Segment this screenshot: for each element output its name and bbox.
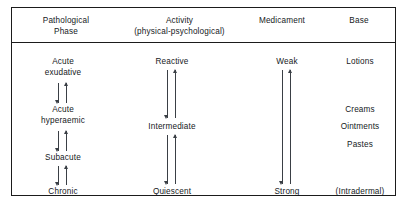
phase-item-line-2: exudative [13, 67, 113, 78]
base-item-intradermal: (Intradermal) [323, 186, 397, 197]
bidirectional-arrow-exudative-hyperaemic [57, 83, 68, 103]
arrow-shaft-up [175, 70, 176, 118]
medicament-item-weak: Weak [237, 56, 337, 67]
base-item-lotions: Lotions [323, 56, 397, 67]
activity-item-line-1: Quiescent [112, 186, 232, 197]
base-item-line-1: Pastes [323, 139, 397, 150]
column-header-line-2: Phase [12, 26, 120, 37]
activity-item-quiescent: Quiescent [112, 186, 232, 197]
phase-item-line-1: Acute [13, 104, 113, 115]
base-item-line-1: Lotions [323, 56, 397, 67]
header-divider-rule [12, 42, 395, 43]
phase-item-line-1: Subacute [13, 152, 113, 163]
arrowhead-up-icon [64, 165, 68, 169]
phase-item-line-1: Acute [13, 56, 113, 67]
column-header-base: Base [322, 15, 396, 26]
phase-item-line-1: Chronic [13, 186, 113, 197]
arrow-shaft-up [290, 70, 291, 184]
column-header-line-1: Base [322, 15, 396, 26]
activity-item-reactive: Reactive [112, 56, 232, 67]
base-item-pastes: Pastes [323, 139, 397, 150]
arrow-shaft-down [167, 135, 168, 184]
arrowhead-down-icon [279, 181, 283, 185]
bidirectional-arrow-reactive-intermediate [166, 70, 177, 118]
medicament-item-line-1: Strong [237, 186, 337, 197]
base-item-creams: Creams [323, 104, 397, 115]
activity-item-intermediate: Intermediate [112, 121, 232, 132]
phase-item-acute-exudative: Acute exudative [13, 56, 113, 79]
base-item-line-1: (Intradermal) [323, 186, 397, 197]
bidirectional-arrow-subacute-chronic [57, 166, 68, 185]
phase-item-acute-hyperaemic: Acute hyperaemic [13, 104, 113, 127]
arrowhead-down-icon [164, 115, 168, 119]
arrowhead-up-icon [173, 134, 177, 138]
bidirectional-arrow-weak-strong [281, 70, 292, 184]
base-item-line-1: Creams [323, 104, 397, 115]
phase-item-chronic: Chronic [13, 186, 113, 197]
bidirectional-arrow-hyperaemic-subacute [57, 131, 68, 151]
base-item-ointments: Ointments [323, 121, 397, 132]
arrow-shaft-up [66, 83, 67, 103]
arrowhead-down-icon [164, 181, 168, 185]
pathological-phase-table-figure: Pathological Phase Activity (physical-ps… [0, 0, 407, 207]
phase-item-line-2: hyperaemic [13, 115, 113, 126]
arrowhead-up-icon [288, 69, 292, 73]
arrowhead-up-icon [64, 130, 68, 134]
column-header-medicament: Medicament [227, 15, 337, 26]
arrowhead-up-icon [173, 69, 177, 73]
table-frame: Pathological Phase Activity (physical-ps… [11, 7, 396, 196]
bidirectional-arrow-intermediate-quiescent [166, 135, 177, 184]
column-header-line-1: Pathological [12, 15, 120, 26]
medicament-item-line-1: Weak [237, 56, 337, 67]
arrow-shaft-down [167, 70, 168, 118]
activity-item-line-1: Intermediate [112, 121, 232, 132]
arrow-shaft-down [282, 70, 283, 184]
column-header-line-2: (physical-psychological) [112, 26, 247, 37]
phase-item-subacute: Subacute [13, 152, 113, 163]
arrow-shaft-up [66, 131, 67, 151]
arrow-shaft-up [175, 135, 176, 184]
base-item-line-1: Ointments [323, 121, 397, 132]
activity-item-line-1: Reactive [112, 56, 232, 67]
column-header-pathological-phase: Pathological Phase [12, 15, 120, 37]
medicament-item-strong: Strong [237, 186, 337, 197]
arrowhead-up-icon [64, 82, 68, 86]
column-header-line-1: Medicament [227, 15, 337, 26]
